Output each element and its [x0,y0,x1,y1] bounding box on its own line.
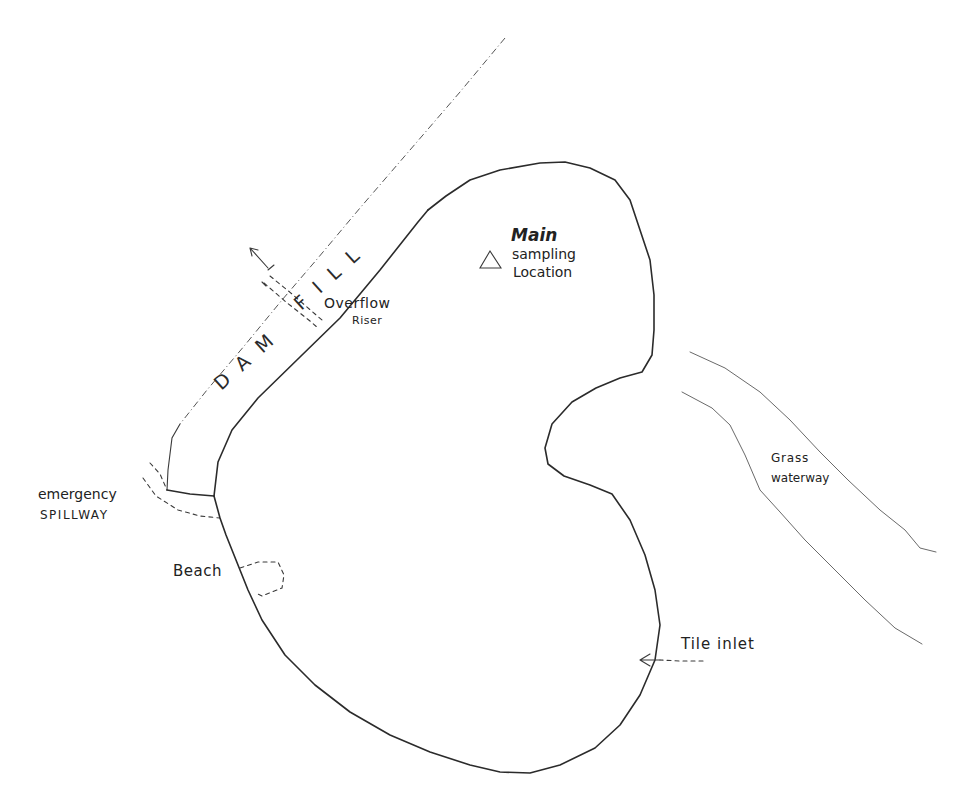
tile-inlet-arrow-icon [640,654,660,666]
sampling-title-label: Main [511,227,557,244]
sampling-line2-label: Location [513,265,572,279]
spillway-top-edge [167,490,214,496]
outflow-arrow-icon [250,248,268,268]
spillway-dotted-upper [150,463,167,490]
pond-outline [214,162,660,773]
sampling-line1-label: sampling [512,247,576,261]
waterway-label: waterway [771,472,829,484]
grass-label: Grass [771,452,809,464]
emergency-label: emergency [38,487,117,501]
beach-label: Beach [173,564,222,579]
tile-inlet-dash [660,660,703,661]
riser-label: Riser [352,315,382,326]
grass-waterway-lower-edge [682,392,922,644]
tile-inlet-label: Tile inlet [681,637,755,652]
pond-site-map [0,0,959,801]
sampling-triangle-icon [480,251,501,268]
spillway-dotted-lower [143,478,220,518]
spillway-label: SPILLWAY [40,509,108,521]
grass-waterway-upper-edge [690,352,936,552]
dam-outer-edge [167,424,180,490]
overflow-label: Overflow [324,296,391,310]
beach-area [240,562,284,596]
